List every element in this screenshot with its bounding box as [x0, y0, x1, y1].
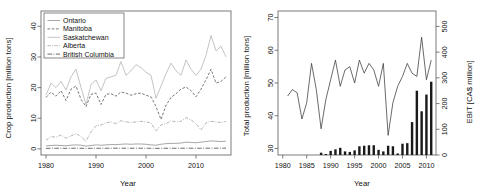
right-chart-panel: 3040506070 0100200300400500 198019851990…	[240, 0, 480, 192]
right-x-axis-title: Year	[354, 179, 370, 188]
ebit-bar	[377, 150, 379, 155]
left-x-axis-title: Year	[120, 179, 136, 188]
right-x-tick-label: 2000	[371, 161, 387, 170]
right-y-tick-labels: 3040506070	[266, 14, 275, 153]
ebit-bar	[382, 151, 384, 155]
left-x-tick-labels: 1980199020002010	[38, 161, 204, 170]
figure-root: 010203040 1980199020002010 OntarioManito…	[0, 0, 480, 192]
left-x-tick-label: 1980	[38, 161, 54, 170]
left-y-tick-label: 20	[29, 84, 38, 92]
left-series-ontario	[46, 141, 226, 146]
left-y-tick-label: 10	[29, 114, 38, 122]
ebit-bar	[334, 149, 336, 155]
ebit-bar	[411, 122, 413, 155]
ebit-bar	[373, 145, 375, 155]
right-x-tick-labels: 1980198519901995200020052010	[275, 161, 435, 170]
right-y-axis-title: Total production [million tons]	[242, 36, 251, 137]
ebit-bar	[358, 146, 360, 155]
left-series-alberta	[46, 118, 226, 142]
right-x-tick-label: 1980	[275, 161, 291, 170]
ebit-bar	[416, 91, 418, 155]
left-x-tick-label: 2000	[138, 161, 154, 170]
left-chart-svg: 010203040 1980199020002010 OntarioManito…	[0, 0, 240, 192]
ebit-bar	[406, 143, 408, 155]
ebit-bar	[401, 144, 403, 155]
right-y-tick-label: 50	[266, 79, 275, 87]
right-x-tick-label: 2010	[418, 161, 434, 170]
ebit-bar	[363, 146, 365, 155]
ebit-bar	[349, 152, 351, 155]
ebit-bar	[329, 151, 331, 155]
left-y-tick-label: 40	[29, 22, 38, 30]
ebit-bar	[353, 150, 355, 155]
ebit-bar	[320, 153, 322, 155]
left-x-tick-label: 2010	[188, 161, 204, 170]
right-chart-svg: 3040506070 0100200300400500 198019851990…	[240, 0, 480, 192]
right-secondary-y-tick-label: 200	[440, 98, 449, 110]
ebit-bar	[392, 146, 394, 155]
right-secondary-y-tick-label: 0	[440, 153, 449, 157]
right-production-line	[288, 37, 432, 135]
ebit-bar	[339, 148, 341, 155]
right-secondary-y-tick-label: 300	[440, 72, 449, 84]
right-secondary-y-axis-title: EBIT [CA$ million]	[465, 60, 474, 123]
left-series-manitoba	[46, 69, 226, 119]
ebit-bar	[387, 146, 389, 155]
right-x-tick-label: 1985	[299, 161, 315, 170]
right-secondary-y-tick-label: 400	[440, 46, 449, 58]
left-chart-panel: 010203040 1980199020002010 OntarioManito…	[0, 0, 240, 192]
left-y-tick-label: 30	[29, 53, 38, 61]
ebit-bar	[430, 82, 432, 155]
right-x-tick-label: 2005	[394, 161, 410, 170]
legend-label-british-columbia: British Columbia	[63, 51, 114, 58]
ebit-bar	[397, 153, 399, 155]
right-secondary-y-tick-labels: 0100200300400500	[440, 20, 449, 157]
ebit-bar	[368, 145, 370, 155]
ebit-bar	[325, 154, 327, 155]
ebit-bar	[420, 111, 422, 155]
left-y-axis-title: Crop production [million tons]	[4, 38, 13, 139]
right-x-tick-label: 1990	[323, 161, 339, 170]
legend-label-ontario: Ontario	[63, 17, 86, 24]
right-y-tick-label: 70	[266, 14, 275, 22]
legend-label-manitoba: Manitoba	[63, 25, 92, 32]
left-y-tick-label: 0	[29, 147, 38, 151]
right-axis-ticks	[275, 18, 440, 159]
right-y-tick-label: 60	[266, 46, 275, 54]
right-x-tick-label: 1995	[347, 161, 363, 170]
right-y-tick-label: 30	[266, 144, 275, 152]
right-secondary-y-tick-label: 500	[440, 20, 449, 32]
right-secondary-y-tick-label: 100	[440, 123, 449, 135]
left-x-tick-label: 1990	[88, 161, 104, 170]
ebit-bar	[344, 151, 346, 155]
left-y-tick-labels: 010203040	[29, 22, 38, 151]
legend-label-saskatchewan: Saskatchewan	[63, 34, 109, 41]
ebit-bar	[425, 95, 427, 155]
right-ebit-bars	[320, 82, 433, 155]
right-y-tick-label: 40	[266, 112, 275, 120]
left-legend: OntarioManitobaSaskatchewanAlbertaBritis…	[44, 13, 124, 58]
total-production-line	[288, 37, 432, 135]
legend-label-alberta: Alberta	[63, 42, 85, 49]
